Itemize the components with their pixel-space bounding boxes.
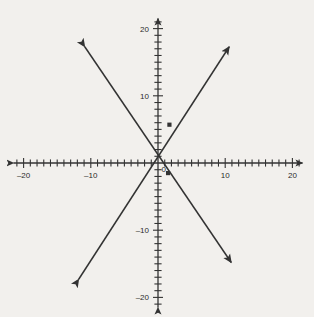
y-tick-label: –20 (136, 293, 150, 302)
marker-on-negative-line (166, 171, 170, 175)
y-tick-label: 20 (140, 25, 149, 34)
coordinate-plane-figure: –20–1010202010–10–200 (0, 0, 314, 317)
y-tick-label: 10 (140, 92, 149, 101)
x-tick-label: –10 (84, 171, 98, 180)
plot-canvas: –20–1010202010–10–200 (0, 0, 314, 317)
x-tick-label: 10 (221, 171, 230, 180)
x-tick-label: –20 (17, 171, 31, 180)
marker-on-positive-line (167, 123, 171, 127)
origin-label: 0 (162, 165, 167, 174)
x-tick-label: 20 (288, 171, 297, 180)
y-tick-label: –10 (136, 226, 150, 235)
